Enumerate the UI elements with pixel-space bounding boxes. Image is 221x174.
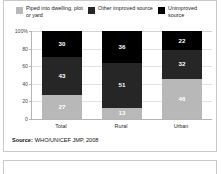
bar-value-label: 27 <box>59 104 66 110</box>
axis-tickmark <box>29 119 32 120</box>
legend-swatch-icon <box>88 7 95 14</box>
bar-segment-other-improved[interactable]: 51 <box>102 63 142 108</box>
legend-item-label: Piped into dwelling, plot or yard <box>26 5 88 18</box>
y-axis-tick-label: 20 <box>22 98 28 104</box>
y-axis: 100% 80 60 40 20 0 <box>4 27 30 119</box>
bar-value-label: 32 <box>179 61 186 67</box>
source-label: Source: <box>12 137 33 143</box>
bar-group-container: 30 43 27 36 51 <box>32 31 212 119</box>
bar-segment-other-improved[interactable]: 32 <box>162 50 202 78</box>
chart-plot-wrapper: 100% 80 60 40 20 0 30 <box>4 27 218 145</box>
bar-value-label: 22 <box>179 38 186 44</box>
y-axis-tick-label: 80 <box>22 46 28 52</box>
x-axis-tick-label-total: Total <box>41 123 81 135</box>
bar-value-label: 13 <box>119 110 126 116</box>
y-axis-tick-label: 60 <box>22 63 28 69</box>
stacked-bar-rural[interactable]: 36 51 13 <box>102 31 142 119</box>
chart-legend: Piped into dwelling, plot or yard Other … <box>12 6 212 28</box>
figure-panel: Piped into dwelling, plot or yard Other … <box>3 0 217 152</box>
x-axis-tick-label-rural: Rural <box>101 123 141 135</box>
bar-segment-piped[interactable]: 13 <box>102 108 142 119</box>
bar-segment-other-improved[interactable]: 43 <box>42 57 82 95</box>
y-axis-tick-label: 100% <box>15 28 28 34</box>
x-axis-tick-label-urban: Urban <box>161 123 201 135</box>
bar-segment-unimproved[interactable]: 30 <box>42 31 82 57</box>
bar-segment-piped[interactable]: 46 <box>162 79 202 119</box>
bar-segment-piped[interactable]: 27 <box>42 95 82 119</box>
legend-item-label: Unimproved source <box>168 5 214 18</box>
bar-value-label: 51 <box>119 82 126 88</box>
legend-swatch-icon <box>16 7 23 14</box>
bar-segment-unimproved[interactable]: 22 <box>162 31 202 50</box>
stacked-bar-urban[interactable]: 22 32 46 <box>162 31 202 119</box>
legend-swatch-icon <box>158 7 165 14</box>
bar-value-label: 30 <box>59 41 66 47</box>
bar-value-label: 36 <box>119 44 126 50</box>
plot-area: 30 43 27 36 51 <box>31 31 212 120</box>
bar-value-label: 43 <box>59 73 66 79</box>
source-note: Source:WHO/UNICEF JMP, 2008 <box>12 137 98 143</box>
stacked-bar-total[interactable]: 30 43 27 <box>42 31 82 119</box>
x-axis-labels: Total Rural Urban <box>31 123 211 135</box>
y-axis-tick-label: 40 <box>22 81 28 87</box>
next-panel-top-edge <box>3 160 217 172</box>
y-axis-tick-label: 0 <box>25 116 28 122</box>
legend-item-label: Other improved source <box>98 5 153 12</box>
bar-value-label: 46 <box>179 96 186 102</box>
bar-segment-unimproved[interactable]: 36 <box>102 31 142 63</box>
source-text: WHO/UNICEF JMP, 2008 <box>35 137 99 143</box>
